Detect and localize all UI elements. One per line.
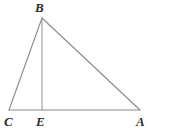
geometry-figure: B C E A [0, 0, 169, 135]
vertex-label-a: A [136, 115, 145, 128]
vertex-label-e: E [36, 115, 45, 128]
segment-CB [9, 18, 42, 110]
vertex-label-c: C [4, 115, 13, 128]
segment-BA [42, 18, 140, 110]
vertex-label-b: B [35, 1, 44, 14]
